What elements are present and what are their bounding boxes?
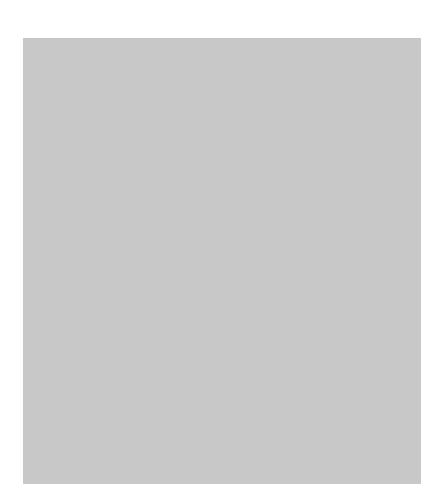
stacked-area-chart	[0, 0, 444, 504]
